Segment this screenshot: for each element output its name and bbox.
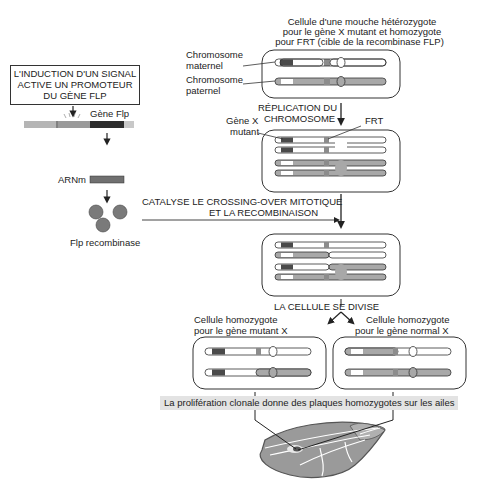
cell-recombined bbox=[262, 234, 400, 296]
label-gene-x-1: Gène X bbox=[226, 115, 258, 126]
daughter-right-1: Cellule homozygote bbox=[366, 314, 449, 325]
cell-homozygous-normal bbox=[333, 337, 466, 389]
step-replication-2: CHROMOSOME bbox=[257, 113, 342, 124]
induction-line3: DU GÈNE FLP bbox=[11, 90, 139, 101]
label-chromosome-paternel-2: paternel bbox=[186, 85, 220, 96]
step-replication-1: RÉPLICATION DU bbox=[255, 102, 340, 113]
daughter-right-2: pour le gène normal X bbox=[355, 325, 448, 336]
step-crossing-2: ET LA RECOMBINAISON bbox=[209, 207, 318, 218]
flp-recombinase-proteins bbox=[89, 205, 127, 232]
mrna-bar bbox=[90, 176, 124, 183]
top-caption-line3: pour FRT (cible de la recombinase FLP) bbox=[252, 36, 467, 47]
daughter-left-2: pour le gène mutant X bbox=[194, 325, 287, 336]
clonal-proliferation-banner: La prolifération clonale donne des plaqu… bbox=[160, 396, 458, 410]
daughter-left-1: Cellule homozygote bbox=[194, 314, 277, 325]
label-chromosome-maternel-2: maternel bbox=[186, 60, 223, 71]
induction-line2: ACTIVE UN PROMOTEUR bbox=[11, 79, 139, 90]
label-frt: FRT bbox=[365, 115, 383, 126]
chromosome-paternal bbox=[275, 77, 386, 87]
cell-heterozygote bbox=[243, 50, 400, 98]
label-gene-flp: Gène Flp bbox=[90, 108, 129, 119]
induction-box: L'INDUCTION D'UN SIGNAL ACTIVE UN PROMOT… bbox=[10, 65, 140, 105]
induction-line1: L'INDUCTION D'UN SIGNAL bbox=[11, 68, 139, 79]
label-gene-x-2: mutant bbox=[230, 126, 259, 137]
fly-wing-illustration bbox=[260, 422, 385, 477]
cell-homozygous-mutant bbox=[193, 337, 326, 389]
step-crossing-1: CATALYSE LE CROSSING-OVER MITOTIQUE bbox=[142, 196, 342, 207]
chromosome-maternal bbox=[275, 58, 386, 68]
step-division: LA CELLULE SE DIVISE bbox=[274, 301, 379, 312]
label-arnm: ARNm bbox=[58, 174, 86, 185]
label-flp-recombinase: Flp recombinase bbox=[70, 237, 140, 248]
label-chromosome-maternel-1: Chromosome bbox=[186, 49, 243, 60]
cell-replicated bbox=[258, 126, 400, 192]
label-chromosome-paternel-1: Chromosome bbox=[186, 74, 243, 85]
